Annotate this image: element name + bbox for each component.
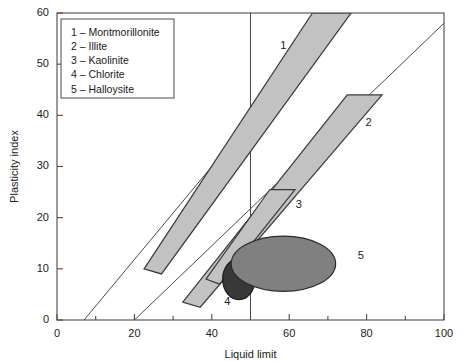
x-tick-label-80: 80 xyxy=(360,327,372,339)
region-halloysite xyxy=(231,236,335,291)
legend-item-5: 5 – Halloysite xyxy=(71,83,134,95)
y-tick-label-60: 60 xyxy=(37,6,49,18)
region-label-3: 3 xyxy=(296,198,302,210)
y-tick-label-30: 30 xyxy=(37,159,49,171)
x-tick-label-60: 60 xyxy=(283,327,295,339)
x-tick-label-40: 40 xyxy=(206,327,218,339)
region-label-1: 1 xyxy=(280,39,286,51)
legend-item-4: 4 – Chlorite xyxy=(71,68,125,80)
region-label-4: 4 xyxy=(224,295,230,307)
chart-canvas: 12345020406080100Liquid limit01020304050… xyxy=(0,0,465,362)
x-tick-label-100: 100 xyxy=(435,327,453,339)
x-axis-title: Liquid limit xyxy=(225,348,277,360)
y-tick-label-10: 10 xyxy=(37,262,49,274)
y-tick-label-0: 0 xyxy=(43,313,49,325)
region-label-5: 5 xyxy=(358,249,364,261)
y-axis-title: Plasticity index xyxy=(8,130,20,203)
y-tick-label-20: 20 xyxy=(37,211,49,223)
legend-item-2: 2 – Illite xyxy=(71,40,107,52)
y-tick-label-50: 50 xyxy=(37,57,49,69)
legend-item-3: 3 – Kaolinite xyxy=(71,54,129,66)
x-tick-label-20: 20 xyxy=(128,327,140,339)
x-tick-label-0: 0 xyxy=(54,327,60,339)
y-tick-label-40: 40 xyxy=(37,108,49,120)
region-label-2: 2 xyxy=(365,116,371,128)
legend-item-1: 1 – Montmorillonite xyxy=(71,26,160,38)
plasticity-chart-figure: 12345020406080100Liquid limit01020304050… xyxy=(0,0,465,362)
